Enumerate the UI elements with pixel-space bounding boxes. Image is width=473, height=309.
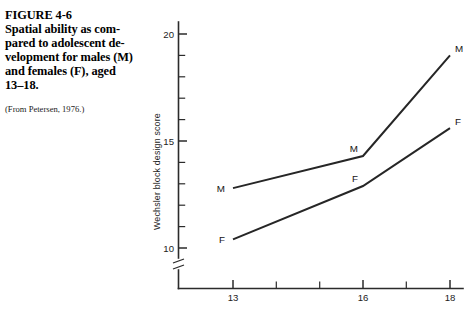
point-label-males-13: M [217,183,225,194]
caption-line-4: and females (F), aged [5,64,147,78]
series-line-males [233,55,450,188]
figure-source-attribution: (From Petersen, 1976.) [5,104,147,114]
point-label-females-16: F [352,173,358,184]
line-chart: Wechsler block design score [147,0,473,309]
x-axis-ticks [233,280,450,289]
x-tick-label-16: 16 [358,292,369,303]
x-tick-label-18: 18 [445,292,456,303]
point-label-females-18: F [455,116,461,127]
caption-line-5: 13–18. [5,78,147,92]
figure-caption-text: Spatial ability as com- pared to adolesc… [5,22,147,92]
point-label-females-13: F [219,234,225,245]
y-axis-title: Wechsler block design score [152,113,162,230]
axis-break-icon [173,259,184,269]
series-line-females [233,128,450,239]
figure-container: FIGURE 4-6 Spatial ability as com- pared… [0,0,473,309]
figure-number: FIGURE 4-6 [5,8,147,22]
y-tick-label-20: 20 [163,29,174,40]
point-label-males-16: M [350,143,358,154]
caption-line-3: velopment for males (M) [5,50,147,64]
caption-line-2: pared to adolescent de- [5,36,147,50]
y-tick-label-10: 10 [163,243,174,254]
point-label-males-18: M [455,43,463,54]
figure-caption-block: FIGURE 4-6 Spatial ability as com- pared… [5,8,147,114]
y-axis-ticks [179,34,188,248]
caption-line-1: Spatial ability as com- [5,22,147,36]
x-tick-label-13: 13 [228,292,239,303]
y-tick-label-15: 15 [163,136,174,147]
